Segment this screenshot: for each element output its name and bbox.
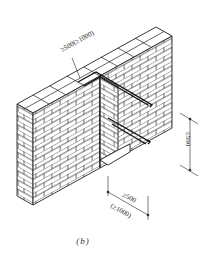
wall-end-face	[17, 104, 33, 205]
dim-spacing-label: ≤500	[184, 132, 192, 147]
dimension-bottom: ≥500 (≥1000)	[107, 176, 149, 220]
figure-caption: (b)	[70, 236, 96, 246]
dim-embed-label-a: ≥500	[121, 191, 138, 205]
dimension-right: ≤500	[180, 113, 198, 176]
main-wall	[17, 27, 172, 205]
brick-wall-diagram: ≥500(≥1000) ≤500 ≥500 (≥1000)	[0, 0, 210, 262]
dim-bar-length-label: ≥500(≥1000)	[59, 29, 96, 54]
